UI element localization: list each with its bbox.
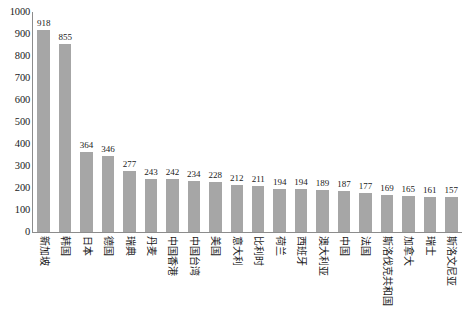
bar-value-label: 157 (445, 186, 459, 195)
bar (273, 189, 286, 232)
bar (338, 191, 351, 232)
x-axis-category: 西班牙 (290, 234, 311, 325)
x-axis-category: 斯洛伐克共和国 (376, 234, 397, 325)
x-axis-category-label: 荷兰 (273, 236, 286, 325)
y-axis-tick-label: 800 (0, 51, 30, 61)
bar-value-label: 918 (37, 19, 51, 28)
x-axis-category: 斯洛文尼亚 (441, 234, 462, 325)
x-axis-category: 比利时 (248, 234, 269, 325)
y-axis-tick-label: 900 (0, 29, 30, 39)
y-axis-tick-label: 100 (0, 205, 30, 215)
bar-value-label: 234 (187, 170, 201, 179)
y-axis-tick-label: 400 (0, 139, 30, 149)
bar (295, 189, 308, 232)
bar-slot: 194 (290, 12, 311, 232)
bar-value-label: 346 (101, 145, 115, 154)
bar-value-label: 161 (423, 186, 437, 195)
bar-slot: 211 (248, 12, 269, 232)
bar-value-label: 194 (294, 178, 308, 187)
bar (80, 152, 93, 232)
y-axis-tick-label: 0 (0, 227, 30, 237)
x-axis-category: 中国 (333, 234, 354, 325)
bar-slot: 243 (140, 12, 161, 232)
bar (166, 179, 179, 232)
bar (145, 179, 158, 232)
x-axis-category-label: 瑞士 (423, 236, 436, 325)
x-axis-category-label: 西班牙 (295, 236, 308, 325)
x-axis-category: 德国 (97, 234, 118, 325)
bar (123, 171, 136, 232)
x-axis-category: 中国香港 (162, 234, 183, 325)
x-axis-category: 意大利 (226, 234, 247, 325)
bar (402, 196, 415, 232)
x-axis-category: 丹麦 (140, 234, 161, 325)
x-axis: 新加坡韩国日本德国瑞典丹麦中国香港中国台湾美国意大利比利时荷兰西班牙澳大利亚中国… (33, 234, 462, 325)
x-axis-category-label: 澳大利亚 (316, 236, 329, 325)
x-axis-category-label: 中国香港 (166, 236, 179, 325)
bar-chart: 10009008007006005004003002001000 9188553… (0, 0, 465, 325)
x-axis-category-label: 法国 (359, 236, 372, 325)
x-axis-category: 瑞典 (119, 234, 140, 325)
bar-slot: 277 (119, 12, 140, 232)
bar-slot: 855 (54, 12, 75, 232)
bar-value-label: 242 (166, 168, 180, 177)
bar-slot: 194 (269, 12, 290, 232)
bar (209, 182, 222, 232)
bar-value-label: 177 (359, 182, 373, 191)
x-axis-category: 法国 (355, 234, 376, 325)
bar-value-label: 194 (273, 178, 287, 187)
x-axis-category-label: 中国 (338, 236, 351, 325)
bar-slot: 169 (376, 12, 397, 232)
x-axis-category: 美国 (205, 234, 226, 325)
bar-value-label: 165 (402, 185, 416, 194)
bar-slot: 228 (205, 12, 226, 232)
bar (359, 193, 372, 232)
bar (316, 190, 329, 232)
y-axis-tick-label: 1000 (0, 7, 30, 17)
x-axis-category: 中国台湾 (183, 234, 204, 325)
bar-value-label: 364 (80, 141, 94, 150)
y-axis-tick-label: 700 (0, 73, 30, 83)
bar (252, 186, 265, 232)
x-axis-category-label: 美国 (209, 236, 222, 325)
bar (445, 197, 458, 232)
x-axis-category-label: 意大利 (230, 236, 243, 325)
bar (37, 30, 50, 232)
bar-value-label: 212 (230, 174, 244, 183)
bar-slot: 346 (97, 12, 118, 232)
bar (381, 195, 394, 232)
bar-slot: 157 (441, 12, 462, 232)
x-axis-category-label: 加拿大 (402, 236, 415, 325)
bar-value-label: 277 (123, 160, 137, 169)
x-axis-line (32, 232, 462, 233)
x-axis-category-label: 韩国 (59, 236, 72, 325)
x-axis-category-label: 比利时 (252, 236, 265, 325)
x-axis-category-label: 德国 (102, 236, 115, 325)
bar-slot: 242 (162, 12, 183, 232)
bar-value-label: 189 (316, 179, 330, 188)
bar-value-label: 228 (209, 171, 223, 180)
x-axis-category-label: 中国台湾 (187, 236, 200, 325)
x-axis-category: 新加坡 (33, 234, 54, 325)
bar-slot: 161 (419, 12, 440, 232)
y-axis-tick-label: 500 (0, 117, 30, 127)
bar (424, 197, 437, 232)
x-axis-category: 瑞士 (419, 234, 440, 325)
x-axis-category: 日本 (76, 234, 97, 325)
bar (231, 185, 244, 232)
bar-slot: 234 (183, 12, 204, 232)
bar-slot: 212 (226, 12, 247, 232)
bar-value-label: 855 (58, 33, 72, 42)
x-axis-category: 荷兰 (269, 234, 290, 325)
y-axis-tick-label: 600 (0, 95, 30, 105)
bar-slot: 189 (312, 12, 333, 232)
bar-slot: 918 (33, 12, 54, 232)
x-axis-category: 加拿大 (398, 234, 419, 325)
bar-slot: 165 (398, 12, 419, 232)
bar-value-label: 169 (380, 184, 394, 193)
x-axis-category-label: 日本 (80, 236, 93, 325)
bar (59, 44, 72, 232)
bar-slot: 187 (333, 12, 354, 232)
x-axis-category-label: 新加坡 (37, 236, 50, 325)
bar-value-label: 187 (337, 180, 351, 189)
